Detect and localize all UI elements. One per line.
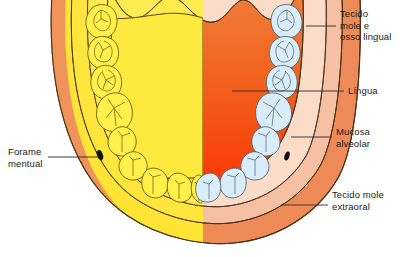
label-forame-mentual: Forame mentual: [8, 146, 43, 169]
tooth-right-molar-3: [271, 5, 302, 39]
label-tecido-mole-osso-lingual: Tecido mole e osso lingual: [340, 8, 391, 43]
tooth-right-molar-4: [256, 93, 292, 132]
tooth-right-molar-2: [269, 36, 300, 69]
tooth-left-canine: [142, 168, 168, 198]
tooth-left-molar-4: [96, 93, 132, 132]
tooth-left-molar-2: [88, 36, 119, 69]
figure-root: Tecido mole e osso lingual Língua Mucosa…: [0, 0, 406, 257]
tooth-left-molar-3: [86, 5, 117, 39]
label-lingua: Língua: [348, 85, 378, 97]
tooth-right-canine: [220, 168, 246, 198]
label-mucosa-alveolar: Mucosa alveolar: [336, 126, 370, 149]
label-tecido-mole-extraoral: Tecido mole extraoral: [332, 189, 384, 212]
